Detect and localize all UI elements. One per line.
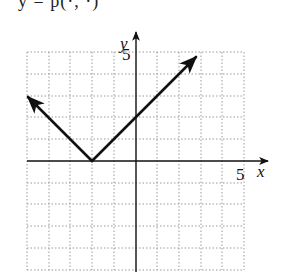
x-axis-label: x [256, 162, 265, 181]
x-tick-label: 5 [236, 165, 245, 184]
absolute-value-graph [28, 57, 196, 161]
coordinate-graph: y 5 5 x [0, 0, 281, 279]
y-tick-label: 5 [122, 45, 131, 64]
